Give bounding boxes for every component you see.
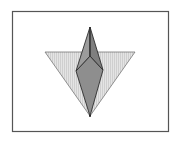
bottom-apex-point [89, 115, 91, 117]
geometric-diagram [0, 0, 179, 143]
